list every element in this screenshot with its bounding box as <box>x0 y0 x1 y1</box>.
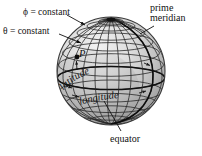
north-pole-dot <box>107 18 116 22</box>
phi-constant-label: ϕ = constant <box>23 8 70 18</box>
equator-text: equator <box>110 133 140 144</box>
point-p-leader <box>76 61 77 70</box>
theta-constant-label: θ = constant <box>3 27 49 37</box>
theta-constant-text: θ = constant <box>3 26 49 36</box>
prime-meridian-line2: meridian <box>150 13 186 23</box>
equator-label: equator <box>110 134 140 144</box>
point-p-text: P <box>79 48 85 59</box>
globe-illustration: latitude longitude <box>0 0 202 156</box>
point-p-label: P <box>79 49 85 60</box>
prime-meridian-label: prime meridian <box>150 3 186 23</box>
spherical-coordinates-figure: latitude longitude ϕ = constant θ = cons… <box>0 0 202 156</box>
phi-constant-text: ϕ = constant <box>23 7 70 17</box>
